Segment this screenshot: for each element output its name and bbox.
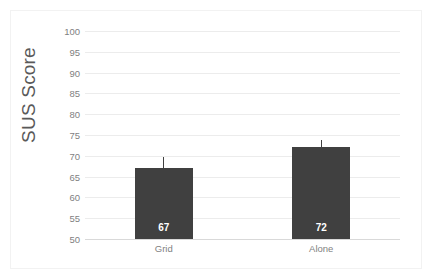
y-axis-tick-label-group: 10095908580757065605550	[50, 31, 80, 239]
bar-value-label: 72	[292, 222, 350, 233]
x-axis-tick-label: Alone	[309, 243, 333, 254]
gridline	[85, 93, 400, 94]
gridline	[85, 73, 400, 74]
error-bar	[163, 157, 164, 170]
y-axis-title: SUS Score	[16, 40, 42, 150]
y-axis-tick-label: 95	[50, 46, 80, 57]
bar-value-label: 67	[135, 222, 193, 233]
gridline	[85, 239, 400, 240]
y-axis-tick-label: 80	[50, 109, 80, 120]
y-axis-tick-label: 65	[50, 171, 80, 182]
plot-area: 6772	[85, 31, 400, 239]
y-axis-tick-label: 55	[50, 213, 80, 224]
y-axis-tick-label: 70	[50, 150, 80, 161]
y-axis-tick-label: 90	[50, 67, 80, 78]
gridline	[85, 197, 400, 198]
y-axis-tick-label: 50	[50, 234, 80, 245]
bar-chart-figure: SUS Score 10095908580757065605550 6772 G…	[0, 0, 432, 279]
bar-group[interactable]: 67	[135, 31, 193, 239]
x-axis-tick-label-group: GridAlone	[85, 243, 400, 259]
gridline	[85, 177, 400, 178]
gridline	[85, 114, 400, 115]
gridline	[85, 135, 400, 136]
y-axis-tick-label: 60	[50, 192, 80, 203]
gridline	[85, 156, 400, 157]
bar-group[interactable]: 72	[292, 31, 350, 239]
gridline	[85, 31, 400, 32]
gridline	[85, 218, 400, 219]
y-axis-tick-label: 100	[50, 26, 80, 37]
y-axis-tick-label: 85	[50, 88, 80, 99]
x-axis-tick-label: Grid	[155, 243, 173, 254]
error-bar	[321, 140, 322, 149]
y-axis-tick-label: 75	[50, 130, 80, 141]
gridline	[85, 52, 400, 53]
